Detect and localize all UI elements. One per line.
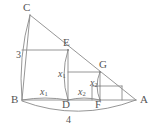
measure-sub-arc-df: 2 <box>82 90 85 97</box>
vertex-label-b: B <box>11 94 18 105</box>
vertex-dot-e <box>67 49 69 51</box>
vertex-label-d: D <box>62 99 70 110</box>
measure-sub-seg-gf: 2 <box>94 81 97 88</box>
measure-label-seg-gf: x2 <box>90 78 98 88</box>
geometry-figure: C B A E D G F 3 4 x1 x1 x2 x2 <box>0 0 156 133</box>
vertex-dot-g <box>99 71 101 73</box>
figure-canvas <box>0 0 156 133</box>
vertex-label-a: A <box>140 94 148 105</box>
measure-label-side-bc: 3 <box>16 50 21 60</box>
arc-ba <box>22 100 136 111</box>
measure-label-arc-df: x2 <box>78 87 86 97</box>
measure-label-arc-bd: x1 <box>40 87 48 97</box>
vertex-label-c: C <box>23 2 30 13</box>
measure-label-side-ba: 4 <box>66 115 71 125</box>
measure-sub-arc-bd: 1 <box>44 90 47 97</box>
vertex-label-g: G <box>99 59 107 70</box>
segment-leg-cb <box>22 15 30 100</box>
measure-label-seg-ed: x1 <box>58 69 66 79</box>
vertex-label-e: E <box>63 37 70 48</box>
vertex-label-f: F <box>95 99 101 110</box>
measure-sub-seg-ed: 1 <box>62 72 65 79</box>
